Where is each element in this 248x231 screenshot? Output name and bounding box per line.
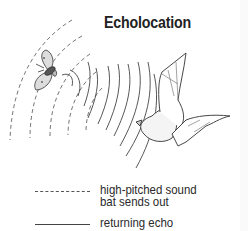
legend-label-line2: bat sends out — [100, 196, 197, 208]
legend-label: returning echo — [100, 217, 173, 229]
emitted-sound-waves — [10, 20, 102, 140]
legend-label-line1: returning echo — [100, 217, 173, 229]
image-edge — [240, 0, 248, 231]
echolocation-diagram: Echolocation high-pitched sound bat send… — [0, 0, 248, 231]
solid-line-swatch — [35, 224, 90, 225]
legend: high-pitched sound bat sends out returni… — [0, 178, 248, 231]
legend-label: high-pitched sound bat sends out — [100, 184, 197, 208]
dashed-line-swatch — [35, 191, 90, 192]
diagram-title: Echolocation — [104, 13, 191, 32]
legend-item-emitted-sound: high-pitched sound bat sends out — [35, 184, 210, 208]
bat-illustration — [136, 53, 230, 146]
moth-illustration — [35, 50, 57, 90]
returning-echo-waves — [62, 62, 157, 168]
legend-item-returning-echo: returning echo — [35, 217, 183, 229]
